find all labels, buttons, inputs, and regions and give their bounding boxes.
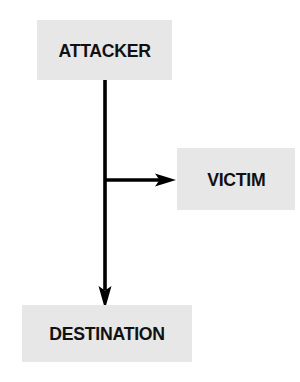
node-attacker-label: ATTACKER — [58, 41, 150, 60]
node-attacker[interactable]: ATTACKER — [37, 20, 172, 80]
node-destination-label: DESTINATION — [49, 324, 164, 343]
node-destination[interactable]: DESTINATION — [22, 305, 192, 362]
diagram-canvas: ATTACKER VICTIM DESTINATION — [0, 0, 300, 382]
node-victim[interactable]: VICTIM — [177, 148, 295, 210]
connector-attacker-to-victim — [105, 174, 176, 187]
arrowhead-right-icon — [155, 174, 176, 187]
node-victim-label: VICTIM — [207, 170, 265, 189]
connector-attacker-to-destination — [99, 80, 112, 309]
